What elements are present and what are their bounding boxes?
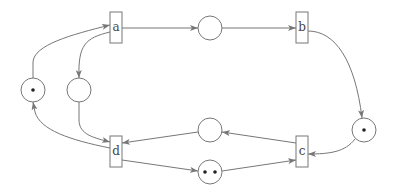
- place-p_ad: [67, 78, 91, 102]
- transition-c-label: c: [299, 144, 306, 158]
- place-p_ab: [198, 16, 222, 40]
- place-p_dc: [198, 160, 222, 184]
- arc-p_cd-to-d: [122, 132, 198, 143]
- token-icon: [31, 88, 35, 92]
- transition-d: d: [110, 136, 122, 167]
- arc-d-to-p_da: [33, 102, 110, 148]
- transition-a: a: [110, 12, 122, 43]
- arc-p_ad-to-d: [79, 102, 110, 142]
- token-icon: [203, 170, 207, 174]
- arc-a-to-p_ad: [79, 32, 110, 78]
- transition-d-label: d: [112, 144, 120, 158]
- arc-p_da-to-a: [33, 25, 110, 78]
- transition-b-label: b: [298, 20, 306, 34]
- transition-b: b: [296, 12, 308, 43]
- arc-p_dc-to-c: [222, 160, 296, 171]
- arc-d-to-p_dc: [122, 160, 198, 171]
- transition-a-label: a: [112, 20, 119, 34]
- arc-b-to-p_b_c: [308, 31, 362, 118]
- token-icon: [213, 170, 217, 174]
- arc-c-to-p_cd: [222, 132, 296, 143]
- token-icon: [362, 128, 366, 132]
- transition-c: c: [296, 136, 308, 167]
- place-p_cd: [198, 118, 222, 142]
- arc-p_b_c-to-c: [308, 139, 355, 154]
- petri-net-diagram: a b c d: [0, 0, 394, 195]
